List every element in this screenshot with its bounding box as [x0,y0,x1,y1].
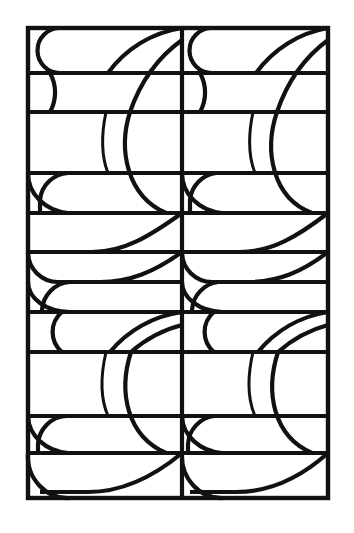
pattern-svg: Interlocking arc lattice pattern [0,0,354,533]
figure-root: Interlocking arc lattice pattern [0,0,354,533]
